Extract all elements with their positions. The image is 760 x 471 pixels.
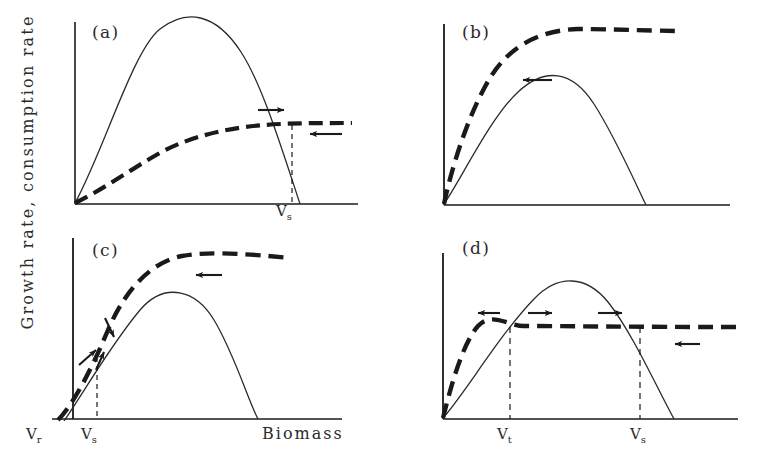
panel-d: [443, 253, 738, 419]
panel-c-consumption-curve: [58, 253, 290, 420]
panel-c-growth-curve: [64, 292, 258, 421]
panel-b: [444, 24, 730, 205]
panel-d-growth-curve: [443, 281, 674, 419]
panel-a: [75, 17, 358, 204]
panel-b-consumption-curve: [444, 29, 678, 204]
panel-d-consumption-curve: [443, 319, 736, 418]
panel-b-growth-curve: [444, 76, 646, 205]
figure-svg: [0, 0, 760, 471]
panel-c: [52, 238, 342, 421]
